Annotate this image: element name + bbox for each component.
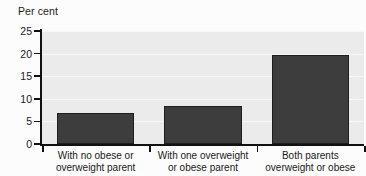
category-label: Both parentsoverweight or obese <box>257 150 364 173</box>
y-tick-label: 15 <box>2 70 32 82</box>
gridline <box>42 31 364 32</box>
x-axis-line <box>40 144 364 146</box>
y-tick-mark <box>34 53 41 55</box>
category-label: With no obese oroverweight parent <box>42 150 149 173</box>
bar <box>164 106 241 144</box>
y-tick-label: 0 <box>2 138 32 150</box>
category-label-line: or obese parent <box>149 162 256 174</box>
y-axis-title: Per cent <box>18 5 58 17</box>
bar <box>272 55 349 144</box>
x-tick-mark <box>364 146 366 152</box>
y-tick-mark <box>34 75 41 77</box>
category-label-line: With one overweight <box>149 150 256 162</box>
plot-area <box>42 31 364 144</box>
y-axis-line <box>40 29 42 146</box>
y-tick-mark <box>34 143 41 145</box>
y-tick-label: 25 <box>2 25 32 37</box>
bar <box>57 113 134 144</box>
category-label-line: Both parents <box>257 150 364 162</box>
y-tick-mark <box>34 121 41 123</box>
category-label: With one overweightor obese parent <box>149 150 256 173</box>
y-tick-mark <box>34 30 41 32</box>
category-label-line: overweight or obese <box>257 162 364 174</box>
bar-chart: Per cent 0510152025 With no obese orover… <box>0 0 366 176</box>
y-tick-label: 5 <box>2 115 32 127</box>
y-tick-mark <box>34 98 41 100</box>
category-label-line: With no obese or <box>42 150 149 162</box>
y-tick-label: 10 <box>2 93 32 105</box>
y-tick-label: 20 <box>2 48 32 60</box>
category-label-line: overweight parent <box>42 162 149 174</box>
